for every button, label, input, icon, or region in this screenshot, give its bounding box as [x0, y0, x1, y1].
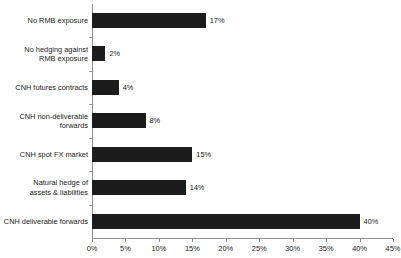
bar-value-label: 14%	[186, 180, 205, 195]
plot-area: 17%2%4%8%15%14%40%	[92, 4, 393, 238]
value-tick	[92, 239, 93, 242]
bar-row: 8%	[92, 104, 393, 137]
value-tick	[360, 239, 361, 242]
bar-row: 14%	[92, 171, 393, 204]
value-tick	[226, 239, 227, 242]
value-tick	[192, 239, 193, 242]
value-tick	[159, 239, 160, 242]
value-tick-label: 5%	[120, 244, 131, 254]
category-label: CNH non-deliverable forwards	[2, 112, 88, 131]
bar	[92, 80, 119, 95]
value-tick	[259, 239, 260, 242]
bar-value-label: 8%	[146, 113, 161, 128]
value-tick	[293, 239, 294, 242]
category-label: Natural hedge of assets & liabilities	[2, 178, 88, 197]
value-tick	[125, 239, 126, 242]
bar-value-label: 17%	[206, 13, 225, 28]
bar-row: 17%	[92, 4, 393, 37]
category-label: No hedging against RMB exposure	[2, 45, 88, 64]
value-axis-line	[92, 238, 393, 239]
value-tick-label: 20%	[218, 244, 233, 254]
bar-row: 40%	[92, 205, 393, 238]
bar	[92, 113, 146, 128]
bar	[92, 13, 206, 28]
bar-value-label: 40%	[360, 214, 379, 229]
category-label: CNH spot FX market	[2, 150, 88, 160]
bar-value-label: 4%	[119, 80, 134, 95]
value-tick-label: 0%	[87, 244, 98, 254]
bar	[92, 46, 105, 61]
bar	[92, 147, 192, 162]
value-tick-label: 30%	[285, 244, 300, 254]
bar-row: 4%	[92, 71, 393, 104]
value-tick-label: 45%	[386, 244, 401, 254]
bar-row: 2%	[92, 37, 393, 70]
value-tick-label: 10%	[151, 244, 166, 254]
category-label: CNH futures contracts	[2, 83, 88, 93]
bar-value-label: 15%	[192, 147, 211, 162]
value-tick-label: 40%	[352, 244, 367, 254]
bar	[92, 214, 360, 229]
bar-chart: 17%2%4%8%15%14%40% 0%5%10%15%20%25%30%35…	[0, 0, 401, 258]
bar-row: 15%	[92, 138, 393, 171]
category-label: No RMB exposure	[2, 16, 88, 26]
value-tick	[393, 239, 394, 242]
value-tick-label: 25%	[252, 244, 267, 254]
bar-value-label: 2%	[105, 46, 120, 61]
value-tick-label: 35%	[319, 244, 334, 254]
category-label: CNH deliverable forwards	[2, 217, 88, 227]
value-tick-label: 15%	[185, 244, 200, 254]
value-tick	[326, 239, 327, 242]
bar	[92, 180, 186, 195]
